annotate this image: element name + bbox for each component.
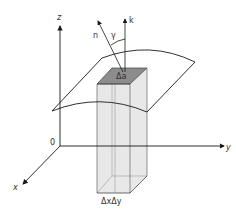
- normal-vector: [98, 21, 123, 72]
- prism-column: [97, 68, 147, 193]
- x-axis: [23, 146, 60, 184]
- surface-patch-label: Δa: [116, 72, 126, 81]
- surface-integral-diagram: z y x 0 n k γ Δa ΔxΔy: [0, 0, 236, 209]
- k-label: k: [129, 16, 134, 25]
- normal-label: n: [93, 31, 98, 40]
- origin-label: 0: [50, 138, 55, 147]
- base-area-label: ΔxΔy: [101, 197, 122, 206]
- angle-label: γ: [111, 31, 116, 40]
- z-axis-label: z: [56, 13, 62, 22]
- x-axis-label: x: [12, 183, 18, 192]
- y-axis-label: y: [225, 143, 231, 152]
